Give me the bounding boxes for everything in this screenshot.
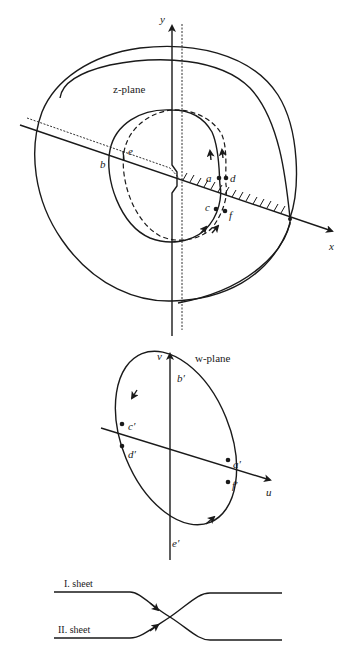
u-axis-label: u [266,486,272,498]
diagram-canvas: y x z-plane b e a d c f v u w-plane b′ c… [0,0,349,657]
branch-point-right [288,217,292,221]
arrow-up-dashed [222,150,223,158]
tick-e [123,151,124,160]
point-f-prime [226,480,231,485]
w-plane-diagram: v u w-plane b′ c′ d′ a′ f′ e′ [92,333,272,560]
label-a-prime: a′ [233,458,242,470]
label-d-prime: d′ [128,448,137,460]
inner-contour-solid [109,110,221,242]
point-c [214,207,219,212]
point-a [217,176,222,181]
u-axis [101,428,270,480]
sheet-2-label: II. sheet [58,624,90,635]
y-axis [172,26,177,336]
x-axis-label: x [328,240,334,252]
outer-contour-sheet-2 [60,60,290,303]
sheet-crossing-diagram: I. sheet II. sheet [54,578,282,640]
sheet-2-arrow [150,625,158,631]
label-e-prime: e′ [172,537,180,549]
label-c: c [205,201,210,213]
w-plane-image-contour [92,333,260,542]
point-a-prime [226,458,231,463]
label-c-prime: c′ [128,420,136,432]
label-d: d [230,172,236,184]
y-axis-label: y [159,13,165,25]
point-d-prime [120,444,125,449]
label-b-prime: b′ [177,372,186,384]
sheet-1-arrow [150,603,158,610]
arrow-right-dashed [212,226,218,233]
w-plane-title: w-plane [195,352,231,364]
arrow-upper-left [132,390,137,398]
label-f-prime: f′ [232,479,238,491]
z-plane-diagram: y x z-plane b e a d c f [20,13,334,336]
v-axis-label: v [157,350,162,362]
point-c-prime [120,422,125,427]
z-plane-title: z-plane [113,83,145,95]
point-d [224,176,229,181]
label-a: a [206,172,212,184]
label-f: f [229,209,234,221]
point-f [223,209,228,214]
label-b: b [100,158,106,170]
arrow-up-solid [210,151,211,160]
label-e: e [128,145,133,157]
sheet-1-label: I. sheet [64,578,93,589]
